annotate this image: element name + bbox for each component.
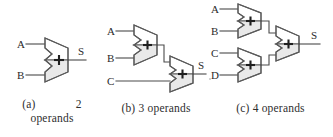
input-label-b: B xyxy=(17,69,24,81)
output-label-s: S xyxy=(311,29,317,41)
wire-interconnect-1 xyxy=(261,21,276,33)
figure-multi-operand-adders: A B S (a) 2 xyxy=(0,0,333,137)
diagram-4-operands: A B C D xyxy=(208,0,333,100)
panel-4-operands: A B C D xyxy=(208,0,333,137)
wire-interconnect-1 xyxy=(157,45,170,62)
input-label-a: A xyxy=(107,25,115,37)
input-label-c: C xyxy=(211,47,218,59)
caption-a-number: 2 xyxy=(76,98,82,110)
input-label-b: B xyxy=(211,25,218,37)
diagram-2-operands: A B S xyxy=(0,0,104,100)
input-label-c: C xyxy=(107,75,114,87)
output-label-s: S xyxy=(198,59,204,71)
adder-3 xyxy=(276,26,299,61)
caption-2-operands: (a) 2 operands xyxy=(0,97,104,125)
panel-2-operands: A B S (a) 2 xyxy=(0,0,104,137)
input-label-d: D xyxy=(211,69,219,81)
input-label-a: A xyxy=(17,38,25,50)
adder-2 xyxy=(238,48,261,82)
input-label-a: A xyxy=(211,3,219,15)
input-label-b: B xyxy=(107,52,114,64)
caption-4-operands: (c) 4 operands xyxy=(208,101,333,115)
adder-2 xyxy=(170,56,193,92)
caption-a-part: (a) xyxy=(22,98,35,110)
adder-1 xyxy=(134,25,157,65)
caption-3-operands: (b) 3 operands xyxy=(104,101,208,115)
adder-1 xyxy=(45,38,68,82)
caption-a-operands: operands xyxy=(0,111,104,125)
panel-3-operands: A B C xyxy=(104,0,208,137)
output-label-s: S xyxy=(78,45,84,57)
adder-1 xyxy=(238,4,261,38)
diagram-3-operands: A B C xyxy=(104,0,208,100)
wire-interconnect-2 xyxy=(261,55,276,65)
